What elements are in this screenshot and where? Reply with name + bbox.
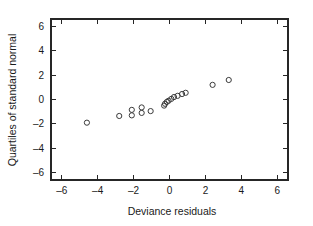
data-point: [129, 113, 134, 118]
y-tick-label: 0: [38, 94, 44, 105]
data-point: [84, 120, 89, 125]
y-tick-label: –4: [33, 143, 45, 154]
x-tick-label: 4: [239, 185, 245, 196]
x-tick-label: –4: [92, 185, 104, 196]
y-axis-tick-labels: –6–4–20246: [33, 21, 45, 178]
scatter-data-points: [84, 77, 231, 125]
x-tick-label: 6: [274, 185, 280, 196]
data-point: [210, 82, 215, 87]
plot-border: [51, 19, 288, 180]
y-tick-label: 4: [38, 45, 44, 56]
x-tick-label: 0: [167, 185, 173, 196]
data-point: [139, 110, 144, 115]
x-tick-label: –2: [128, 185, 140, 196]
data-point: [139, 105, 144, 110]
x-axis-ticks: [62, 19, 277, 180]
x-tick-label: –6: [56, 185, 68, 196]
y-tick-label: 6: [38, 21, 44, 32]
data-point: [226, 77, 231, 82]
chart-canvas: –6–4–20246 –6–4–20246 Deviance residuals…: [0, 0, 313, 226]
qq-plot-figure: –6–4–20246 –6–4–20246 Deviance residuals…: [0, 0, 313, 226]
y-tick-label: –2: [33, 118, 45, 129]
y-axis-ticks: [51, 26, 288, 172]
y-tick-label: –6: [33, 167, 45, 178]
data-point: [129, 107, 134, 112]
data-point: [148, 108, 153, 113]
x-axis-tick-labels: –6–4–20246: [56, 185, 280, 196]
x-tick-label: 2: [203, 185, 209, 196]
data-point: [117, 113, 122, 118]
axes-frame: [51, 19, 288, 180]
x-axis-title: Deviance residuals: [128, 205, 217, 217]
y-tick-label: 2: [38, 70, 44, 81]
y-axis-title: Quartiles of standard normal: [6, 34, 18, 166]
